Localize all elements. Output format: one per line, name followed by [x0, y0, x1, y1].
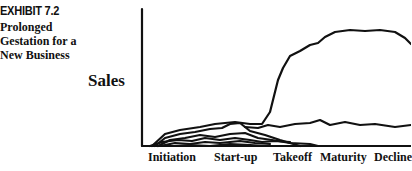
curve-failed-5 — [175, 144, 265, 146]
curve-success — [152, 30, 411, 146]
curve-moderate — [245, 120, 411, 128]
x-tick-decline: Decline — [374, 150, 412, 165]
x-tick-maturity: Maturity — [320, 150, 367, 165]
x-tick-start-up: Start-up — [214, 150, 257, 165]
x-tick-initiation: Initiation — [148, 150, 196, 165]
x-tick-takeoff: Takeoff — [273, 150, 312, 165]
